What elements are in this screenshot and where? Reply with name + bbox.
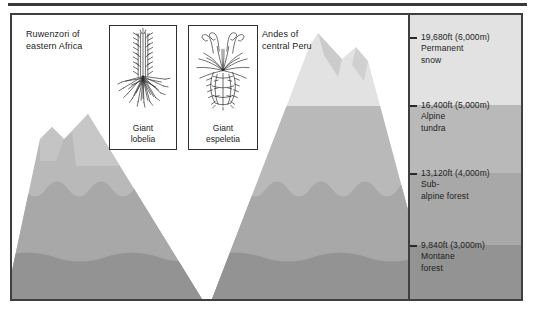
zone-name-montane-forest: Montane forest <box>421 251 455 272</box>
plant-caption-giant-espeletia: Giant espeletia <box>189 123 257 145</box>
giant-lobelia-illustration <box>110 28 176 113</box>
legend-label-montane-forest: 9,840ft (3,000m)Montane forest <box>421 240 485 274</box>
legend-label-alpine-tundra: 16,400ft (5,000m)Alpine tundra <box>421 100 490 134</box>
zone-name-sub-alpine-forest: Sub- alpine forest <box>421 179 469 200</box>
plant-inset-giant-lobelia: Giant lobelia <box>109 25 177 150</box>
legend-label-sub-alpine-forest: 13,120ft (4,000m)Sub- alpine forest <box>421 168 490 202</box>
elevation-value-13120ft: 13,120ft (4,000m) <box>421 168 490 178</box>
region-label-andes: Andes of central Peru <box>262 28 312 52</box>
tick-16400ft <box>410 105 417 107</box>
legend-label-permanent-snow: 19,680ft (6,000m)Permanent snow <box>421 32 490 66</box>
figure-frame: Ruwenzori of eastern Africa Andes of cen… <box>10 13 523 301</box>
elevation-legend-panel: 19,680ft (6,000m)Permanent snow 16,400ft… <box>408 15 521 299</box>
elevation-value-16400ft: 16,400ft (5,000m) <box>421 100 490 110</box>
elevation-value-19680ft: 19,680ft (6,000m) <box>421 32 490 42</box>
tick-13120ft <box>410 173 417 175</box>
zone-name-permanent-snow: Permanent snow <box>421 43 463 64</box>
plant-caption-giant-lobelia: Giant lobelia <box>110 123 176 145</box>
plant-inset-giant-espeletia: Giant espeletia <box>188 25 258 150</box>
top-divider-rule <box>8 3 527 6</box>
zone-name-alpine-tundra: Alpine tundra <box>421 111 446 132</box>
giant-espeletia-illustration <box>189 28 257 113</box>
diagram-canvas: Ruwenzori of eastern Africa Andes of cen… <box>0 0 535 317</box>
tick-19680ft <box>410 37 417 39</box>
region-label-ruwenzori: Ruwenzori of eastern Africa <box>26 28 82 52</box>
tick-9840ft <box>410 245 417 247</box>
elevation-value-9840ft: 9,840ft (3,000m) <box>421 240 485 250</box>
